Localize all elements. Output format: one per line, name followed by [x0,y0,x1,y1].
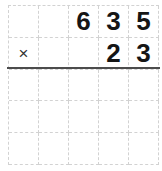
empty-cell [9,6,39,38]
multiplier-digit-cell: 2 [99,38,129,70]
answer-cell[interactable] [129,70,159,102]
empty-cell [39,38,69,70]
answer-cell[interactable] [99,101,129,133]
answer-cell[interactable] [129,101,159,133]
answer-cell[interactable] [129,133,159,165]
multiplication-grid: 6 3 5 × 2 3 [8,5,159,165]
worksheet-page: 6 3 5 × 2 3 [0,0,162,171]
answer-cell[interactable] [9,101,39,133]
multiplicand-digit-cell: 5 [129,6,159,38]
answer-cell[interactable] [39,70,69,102]
answer-cell[interactable] [39,101,69,133]
answer-cell[interactable] [39,133,69,165]
multiplicand-digit-cell: 3 [99,6,129,38]
answer-cell[interactable] [9,70,39,102]
multiply-sign-cell: × [9,38,39,70]
answer-cell[interactable] [69,133,99,165]
answer-cell[interactable] [9,133,39,165]
answer-cell[interactable] [69,70,99,102]
answer-rule-line [7,67,160,69]
answer-cell[interactable] [99,70,129,102]
multiplier-digit-cell: 3 [129,38,159,70]
answer-cell[interactable] [69,101,99,133]
empty-cell [69,38,99,70]
answer-cell[interactable] [99,133,129,165]
empty-cell [39,6,69,38]
multiplicand-digit-cell: 6 [69,6,99,38]
